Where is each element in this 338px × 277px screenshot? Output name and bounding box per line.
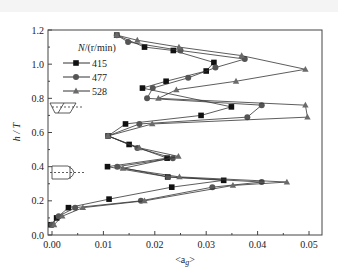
radial-impeller-icon: [50, 166, 85, 179]
y-tick-label: 0.0: [32, 230, 45, 241]
legend-item-528: 528: [92, 86, 107, 97]
y-tick-label: 0.2: [32, 195, 45, 206]
x-axis-label: <ag>: [175, 254, 195, 267]
legend-title: N/(r/min): [77, 42, 116, 54]
series-528: [51, 32, 311, 227]
y-tick-label: 0.6: [32, 127, 45, 138]
legend-item-477: 477: [92, 72, 107, 83]
legend: N/(r/min)415477528: [63, 42, 116, 97]
legend-item-415: 415: [92, 58, 107, 69]
x-tick-label: 0.03: [197, 239, 215, 250]
y-axis-label: h / T: [11, 121, 22, 141]
x-tick-label: 0.05: [300, 239, 318, 250]
x-tick-label: 0.04: [249, 239, 267, 250]
pitched-blade-impeller-icon: [50, 103, 84, 113]
y-tick-label: 1.2: [32, 25, 45, 36]
x-tick-label: 0.01: [95, 239, 113, 250]
x-tick-label: 0.02: [146, 239, 164, 250]
chart-svg: 0.00.20.40.60.81.01.20.000.010.020.030.0…: [0, 0, 338, 277]
x-tick-label: 0.00: [43, 239, 61, 250]
y-tick-label: 1.0: [32, 59, 45, 70]
y-tick-label: 0.8: [32, 93, 45, 104]
plot-frame: [48, 30, 322, 235]
series-line: [52, 35, 262, 225]
y-tick-label: 0.4: [32, 161, 45, 172]
